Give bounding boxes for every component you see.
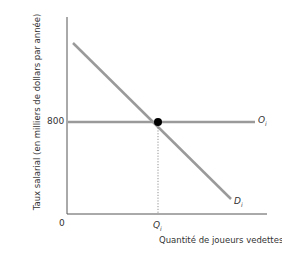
chart-canvas (0, 0, 282, 255)
y-axis-label: Taux salarial (en milliers de dollars pa… (32, 14, 42, 211)
o-sub: i (265, 120, 267, 127)
supply-label: Oi (258, 115, 267, 127)
x-tick-q-label: Qi (153, 220, 162, 232)
d-sub: i (241, 201, 243, 208)
x-axis-label: Quantité de joueurs vedettes (159, 235, 282, 245)
q-sub: i (160, 225, 162, 232)
y-tick-800: 800 (47, 116, 64, 126)
origin-label: 0 (59, 218, 65, 228)
d-main: D (234, 196, 241, 206)
demand-label: Di (234, 196, 243, 208)
equilibrium-point (154, 118, 162, 126)
